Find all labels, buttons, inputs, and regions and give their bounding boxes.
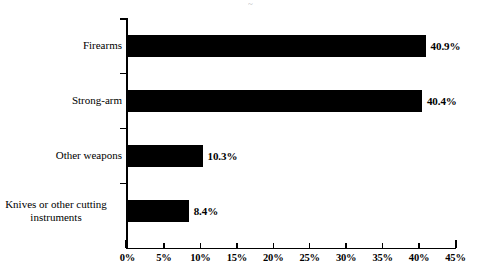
x-tick-label-30: 30% [336, 251, 356, 264]
scan-artifact: ~ [248, 1, 262, 8]
category-label: Firearms [0, 39, 122, 52]
bar [128, 145, 203, 167]
bar [128, 35, 426, 57]
x-tick-label-20: 20% [263, 251, 283, 264]
bar-value-label: 8.4% [194, 200, 218, 222]
x-axis-tick-40 [418, 243, 420, 248]
x-axis-tick-25 [309, 243, 311, 248]
x-axis-tick-10 [200, 243, 202, 248]
y-axis-tick-2 [120, 183, 127, 185]
x-tick-label-5: 5% [156, 251, 171, 264]
x-axis-tick-35 [382, 243, 384, 248]
x-tick-label-0: 0% [120, 251, 135, 264]
x-tick-label-45: 45% [445, 251, 465, 264]
x-axis-tick-30 [345, 243, 347, 248]
x-axis-tick-5 [163, 243, 165, 248]
category-label: Strong-arm [0, 94, 122, 107]
x-axis-line [126, 248, 456, 250]
y-axis-top-cap [120, 18, 127, 20]
bar-value-label: 10.3% [208, 145, 238, 167]
category-label: Knives or other cutting instruments [0, 198, 122, 223]
category-label: Other weapons [0, 149, 122, 162]
x-tick-label-15: 15% [227, 251, 247, 264]
bar-chart: ~ 40.9%40.4%10.3%8.4% FirearmsStrong-arm… [0, 0, 477, 275]
x-axis-origin-cap [125, 240, 127, 248]
bar-value-label: 40.9% [431, 35, 461, 57]
bar-value-label: 40.4% [427, 90, 457, 112]
x-axis-tick-15 [236, 243, 238, 248]
x-tick-label-40: 40% [409, 251, 429, 264]
bar [128, 200, 189, 222]
y-axis-tick-0 [120, 73, 127, 75]
x-axis-tick-20 [273, 243, 275, 248]
x-axis-end-cap [455, 240, 457, 248]
x-tick-label-25: 25% [300, 251, 320, 264]
bar [128, 90, 422, 112]
x-tick-label-35: 35% [372, 251, 392, 264]
y-axis-tick-1 [120, 128, 127, 130]
x-tick-label-10: 10% [190, 251, 210, 264]
